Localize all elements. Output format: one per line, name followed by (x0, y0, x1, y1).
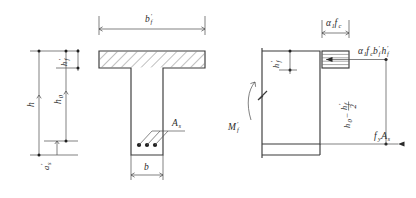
label-lever-minus: − (342, 113, 352, 119)
label-alpha1fc-f-sub: c (338, 22, 341, 29)
label-As-main: A (171, 118, 178, 128)
dim-tick-h-bottom (38, 154, 41, 157)
label-as-main: a (41, 166, 51, 170)
dim-tick-h0-top (65, 50, 68, 53)
flange-hatching (100, 52, 205, 68)
dim-tick-hf-stress-top (289, 50, 292, 53)
dim-tick-hf-bottom (77, 67, 80, 70)
dim-tick-h-top (38, 50, 41, 53)
label-lever-h0: h (342, 124, 352, 128)
label-moment-group: M f ′ (227, 120, 240, 134)
label-hf-main: h (59, 62, 69, 66)
engineering-diagram: h h 0 h f ′ a s ′ (0, 0, 416, 198)
dim-tick-hf-top (77, 50, 80, 53)
label-compression-force-group: α 1 f c b f ′ h f ′ (358, 44, 390, 58)
label-tf-A: A (380, 131, 387, 141)
label-lever-denominator: 2 (348, 103, 358, 108)
label-hf-stress-main: h (271, 64, 281, 68)
label-h: h (26, 102, 36, 107)
dim-tick-h0-bottom (65, 140, 68, 143)
figure-root: h h 0 h f ′ a s ′ (0, 0, 416, 198)
label-lever-hf: h (339, 106, 349, 110)
label-bf-main: b (145, 14, 150, 24)
label-h0-main: h (53, 99, 63, 104)
label-b: b (144, 162, 149, 172)
label-moment-main: M (227, 122, 237, 132)
